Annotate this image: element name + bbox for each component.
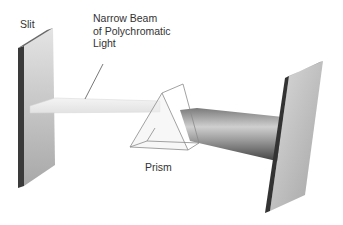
prism-label: Prism: [145, 161, 172, 174]
beam-label-line-2: of Polychromatic: [93, 25, 171, 38]
beam-label-line-3: Light: [93, 37, 171, 50]
beam-label-line-1: Narrow Beam: [93, 12, 171, 25]
beam-leader-line: [85, 64, 103, 99]
beam-label: Narrow Beam of Polychromatic Light: [93, 12, 171, 50]
diagram-canvas: [0, 0, 343, 225]
slit-label: Slit: [20, 18, 35, 31]
narrow-beam: [30, 98, 160, 113]
dispersed-beam: [180, 108, 283, 162]
prism-diagram: Slit Narrow Beam of Polychromatic Light …: [0, 0, 343, 225]
